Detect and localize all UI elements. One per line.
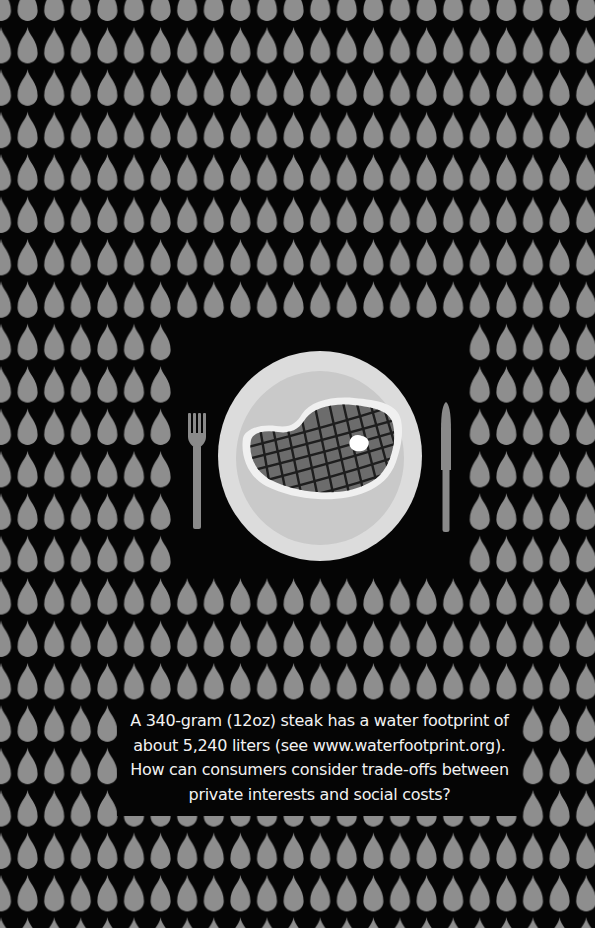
caption-box: A 340-gram (12oz) steak has a water foot… [117, 700, 522, 816]
caption-text: A 340-gram (12oz) steak has a water foot… [117, 709, 522, 807]
knife-icon [441, 402, 451, 532]
